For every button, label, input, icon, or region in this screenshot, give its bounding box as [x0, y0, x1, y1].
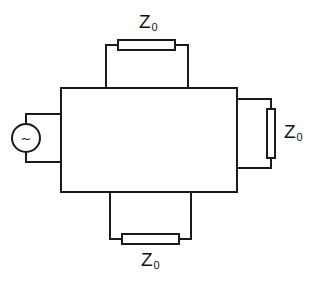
- source-wire: [26, 152, 61, 162]
- circuit-diagram: ~ Z0 Z0 Z0: [0, 0, 313, 286]
- circuit-drawing: ~: [0, 0, 313, 286]
- right-branch-wire: [237, 99, 271, 109]
- right-resistor-z0: [267, 109, 275, 158]
- bottom-z0-label: Z0: [141, 250, 160, 271]
- top-z0-label: Z0: [139, 12, 158, 33]
- ac-source-symbol: ~: [21, 131, 32, 146]
- top-branch-wire: [106, 45, 118, 88]
- bottom-resistor-z0: [122, 234, 179, 244]
- source-wire: [26, 114, 61, 124]
- top-resistor-z0: [118, 40, 175, 50]
- right-branch-wire: [237, 158, 271, 168]
- network-block: [61, 88, 237, 192]
- right-z0-label: Z0: [284, 122, 303, 143]
- top-branch-wire: [175, 45, 188, 88]
- bottom-branch-wire: [179, 192, 191, 239]
- bottom-branch-wire: [110, 192, 122, 239]
